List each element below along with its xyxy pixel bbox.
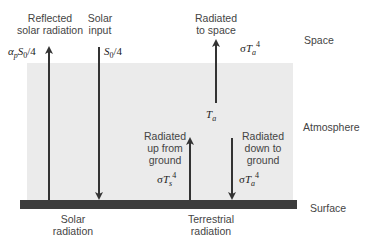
layer-surface: Surface bbox=[310, 202, 346, 214]
layer-space: Space bbox=[304, 34, 334, 46]
terrestrial-radiation-label: Terrestrial radiation bbox=[181, 213, 241, 237]
ground-up-flux: σTs4 bbox=[157, 171, 176, 188]
down-label: Radiated down to ground bbox=[238, 130, 288, 166]
layer-atmosphere: Atmosphere bbox=[303, 121, 360, 133]
down-flux: σTa4 bbox=[239, 171, 259, 188]
atm-temp: Ta bbox=[206, 108, 216, 123]
solar-radiation-label: Solar radiation bbox=[48, 213, 98, 237]
space-flux: σTa4 bbox=[240, 40, 260, 57]
reflected-flux: αpS0/4 bbox=[8, 45, 36, 60]
solar-input-label: Solar input bbox=[80, 12, 120, 36]
radiated-space-label: Radiated to space bbox=[190, 12, 242, 36]
solar-flux: S0/4 bbox=[104, 45, 122, 60]
ground-up-label: Radiated up from ground bbox=[140, 130, 190, 166]
